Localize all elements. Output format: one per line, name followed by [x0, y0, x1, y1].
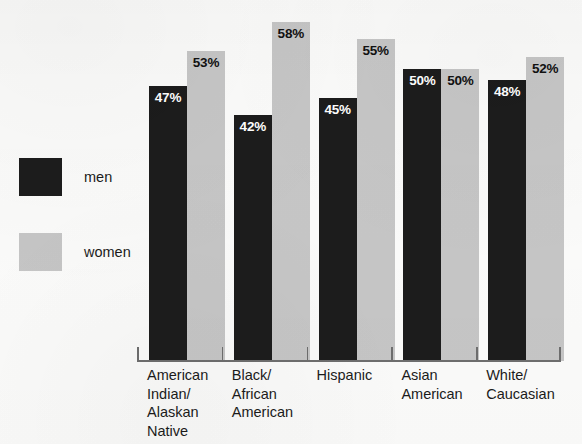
bar-chart: men women 47%53%42%58%45%55%50%50%48%52%…	[0, 0, 582, 444]
bar-women: 55%	[357, 39, 395, 361]
axis-baseline	[137, 360, 561, 362]
legend-item-men: men	[19, 158, 112, 196]
bar-value-label: 45%	[319, 103, 357, 117]
bar-value-label: 58%	[272, 27, 310, 41]
category-axis	[137, 346, 561, 362]
bar-value-label: 50%	[403, 74, 441, 88]
bar-men: 47%	[149, 86, 187, 361]
bar-women: 52%	[526, 57, 564, 361]
category-label: Hispanic	[317, 366, 373, 385]
bar-men: 48%	[488, 80, 526, 361]
bar-value-label: 55%	[357, 44, 395, 58]
bar-men: 45%	[319, 98, 357, 361]
bar-group: 47%53%	[137, 10, 222, 361]
axis-tick	[476, 347, 478, 362]
bar-men: 42%	[234, 115, 272, 361]
axis-tick	[391, 347, 393, 362]
bar-value-label: 42%	[234, 120, 272, 134]
category-label: American Indian/ Alaskan Native	[147, 366, 208, 440]
bar-group: 45%55%	[307, 10, 392, 361]
legend-item-women: women	[19, 233, 131, 271]
category-label: White/ Caucasian	[486, 366, 555, 403]
plot-area: 47%53%42%58%45%55%50%50%48%52%	[137, 10, 561, 361]
legend-label-men: men	[84, 170, 112, 185]
axis-tick	[559, 347, 561, 362]
bar-women: 53%	[187, 51, 225, 361]
bar-value-label: 50%	[441, 74, 479, 88]
bar-value-label: 52%	[526, 62, 564, 76]
category-label-group: American Indian/ Alaskan NativeBlack/ Af…	[137, 366, 577, 444]
axis-tick	[307, 347, 309, 362]
bar-group: 50%50%	[391, 10, 476, 361]
category-label: Asian American	[401, 366, 462, 403]
bar-value-label: 53%	[187, 56, 225, 70]
axis-tick	[222, 347, 224, 362]
legend-label-women: women	[84, 245, 131, 260]
legend-swatch-women	[19, 233, 62, 271]
bar-women: 50%	[441, 69, 479, 362]
bar-value-label: 48%	[488, 85, 526, 99]
axis-tick	[137, 347, 139, 362]
bar-men: 50%	[403, 69, 441, 362]
bar-women: 58%	[272, 22, 310, 361]
legend-swatch-men	[19, 158, 62, 196]
bar-group: 48%52%	[476, 10, 561, 361]
bar-group: 42%58%	[222, 10, 307, 361]
bar-value-label: 47%	[149, 91, 187, 105]
category-label: Black/ African American	[232, 366, 293, 422]
